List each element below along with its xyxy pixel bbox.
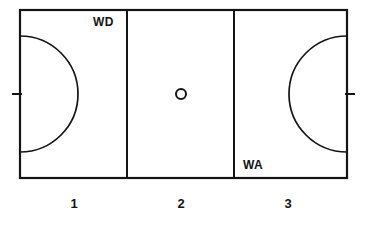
court-svg xyxy=(0,0,369,229)
court-outline xyxy=(20,10,347,178)
position-label-wa: WA xyxy=(243,159,263,171)
position-label-wd: WD xyxy=(93,16,114,28)
third-number-3: 3 xyxy=(268,197,308,210)
third-number-2: 2 xyxy=(161,197,201,210)
third-number-1: 1 xyxy=(54,197,94,210)
netball-court-diagram: WD WA 1 2 3 xyxy=(0,0,369,229)
